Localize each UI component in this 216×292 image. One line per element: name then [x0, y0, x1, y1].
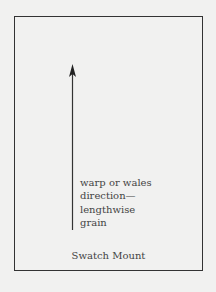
arrow-up-icon — [0, 0, 216, 292]
label-line: lengthwise — [80, 203, 152, 216]
diagram-title: Swatch Mount — [14, 250, 203, 261]
label-line: warp or wales — [80, 176, 152, 189]
grain-direction-label: warp or wales direction— lengthwise grai… — [80, 176, 152, 229]
label-line: direction— — [80, 189, 152, 202]
label-line: grain — [80, 216, 152, 229]
